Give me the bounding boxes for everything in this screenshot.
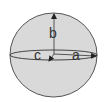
label-c: c (34, 47, 41, 63)
label-b: b (49, 25, 57, 41)
ellipsoid-diagram: b a c (0, 0, 106, 102)
label-a: a (72, 47, 80, 63)
ellipsoid-svg: b a c (0, 0, 106, 102)
